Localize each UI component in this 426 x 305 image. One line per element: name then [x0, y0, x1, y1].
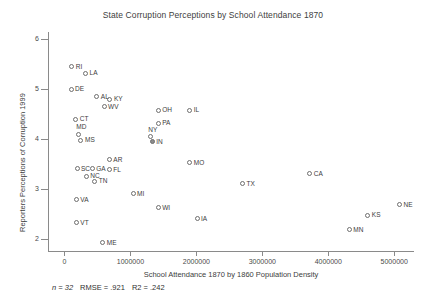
x-tick-mark [196, 251, 197, 256]
data-point-marker [307, 171, 312, 176]
y-tick-label: 5 [28, 85, 39, 92]
r2-label: R2 = .242 [132, 283, 165, 292]
x-tick-label: 1000000 [117, 258, 144, 265]
x-tick-label: 3000000 [249, 258, 276, 265]
data-point-marker [75, 166, 80, 171]
data-point-marker [102, 104, 107, 109]
data-point-label: TX [247, 180, 255, 187]
x-tick-mark [64, 251, 65, 256]
data-point-marker [150, 139, 155, 144]
data-point-label: MI [137, 190, 144, 197]
y-tick-mark [41, 239, 48, 240]
data-point-label: VA [80, 196, 88, 203]
data-point-label: WV [108, 103, 118, 110]
y-tick-mark [41, 189, 48, 190]
data-point-label: NY [148, 126, 157, 133]
data-point-marker [187, 160, 192, 165]
data-point-label: MS [85, 136, 95, 143]
x-tick-mark [394, 251, 395, 256]
x-tick-label: 2000000 [183, 258, 210, 265]
data-point-label: VT [80, 219, 88, 226]
x-axis-line [48, 251, 414, 252]
x-tick-label: 5000000 [381, 258, 408, 265]
data-point-marker [156, 205, 161, 210]
data-point-marker [195, 216, 200, 221]
data-point-label: MD [76, 123, 86, 130]
data-point-label: IL [194, 106, 199, 113]
data-point-marker [69, 87, 74, 92]
data-point-marker [131, 191, 136, 196]
data-point-label: LA [90, 69, 98, 76]
data-point-marker [100, 240, 105, 245]
y-tick-mark [41, 139, 48, 140]
data-point-marker [73, 117, 78, 122]
scatter-chart-figure: State Corruption Perceptions by School A… [0, 0, 426, 305]
y-axis-title: Reporters Perceptions of Corruption 1999 [18, 93, 27, 232]
data-point-label: AR [113, 156, 122, 163]
regression-statistics: n = 32RMSE = .921R2 = .242 [52, 283, 165, 292]
data-point-label: IA [201, 215, 207, 222]
data-point-label: DE [75, 85, 84, 92]
data-point-label: WI [162, 204, 170, 211]
sample-size-label: n = 32 [52, 283, 73, 292]
x-tick-mark [328, 251, 329, 256]
data-point-marker [90, 166, 95, 171]
data-point-marker [84, 174, 89, 179]
data-point-marker [76, 132, 81, 137]
data-point-marker [74, 197, 79, 202]
y-tick-mark [41, 39, 48, 40]
data-point-marker [187, 108, 192, 113]
data-point-marker [107, 157, 112, 162]
x-tick-mark [130, 251, 131, 256]
y-tick-label: 6 [28, 35, 39, 42]
data-point-marker [74, 220, 79, 225]
y-tick-label: 2 [28, 235, 39, 242]
data-point-label: PA [162, 119, 170, 126]
data-point-marker [69, 64, 74, 69]
data-point-label: RI [76, 63, 83, 70]
data-point-marker [347, 227, 352, 232]
data-point-marker [240, 181, 245, 186]
data-point-label: OH [162, 106, 172, 113]
data-point-label: IN [156, 138, 163, 145]
data-point-marker [94, 94, 99, 99]
data-point-label: KS [372, 211, 381, 218]
data-point-marker [78, 138, 83, 143]
data-point-marker [83, 71, 88, 76]
data-point-label: SC [81, 165, 90, 172]
data-point-marker [397, 202, 402, 207]
data-point-marker [156, 108, 161, 113]
y-tick-label: 4 [28, 135, 39, 142]
data-point-label: KY [114, 95, 123, 102]
data-point-marker [92, 179, 97, 184]
y-tick-mark [41, 89, 48, 90]
rmse-label: RMSE = .921 [80, 283, 125, 292]
data-point-label: TN [99, 177, 108, 184]
x-tick-mark [262, 251, 263, 256]
data-point-label: NE [403, 201, 412, 208]
data-point-marker [365, 213, 370, 218]
x-axis-title: School Attendance 1870 by 1860 Populatio… [48, 270, 414, 279]
data-point-label: MN [353, 226, 363, 233]
plot-area: RILADEALKYWVCTOHILPAMDMSNYINARMOSCGAFLNC… [48, 32, 409, 250]
data-point-marker [107, 97, 112, 102]
y-tick-label: 3 [28, 185, 39, 192]
data-point-label: CT [80, 115, 89, 122]
chart-title: State Corruption Perceptions by School A… [0, 10, 426, 20]
data-point-label: FL [113, 166, 121, 173]
data-point-label: CA [314, 170, 323, 177]
data-point-label: MO [194, 159, 204, 166]
data-point-label: ME [107, 239, 117, 246]
x-tick-label: 0 [63, 258, 67, 265]
data-point-label: GA [96, 165, 105, 172]
data-point-marker [107, 167, 112, 172]
x-tick-label: 4000000 [315, 258, 342, 265]
